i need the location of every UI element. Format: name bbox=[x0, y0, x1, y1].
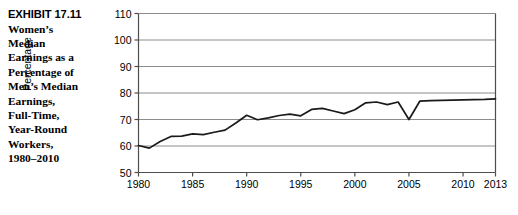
line-chart: Percentage 5060708090100110 198019851990… bbox=[0, 0, 518, 215]
plot-area bbox=[0, 0, 518, 215]
exhibit-figure: EXHIBIT 17.11 Women’s Median Earnings as… bbox=[0, 0, 518, 215]
